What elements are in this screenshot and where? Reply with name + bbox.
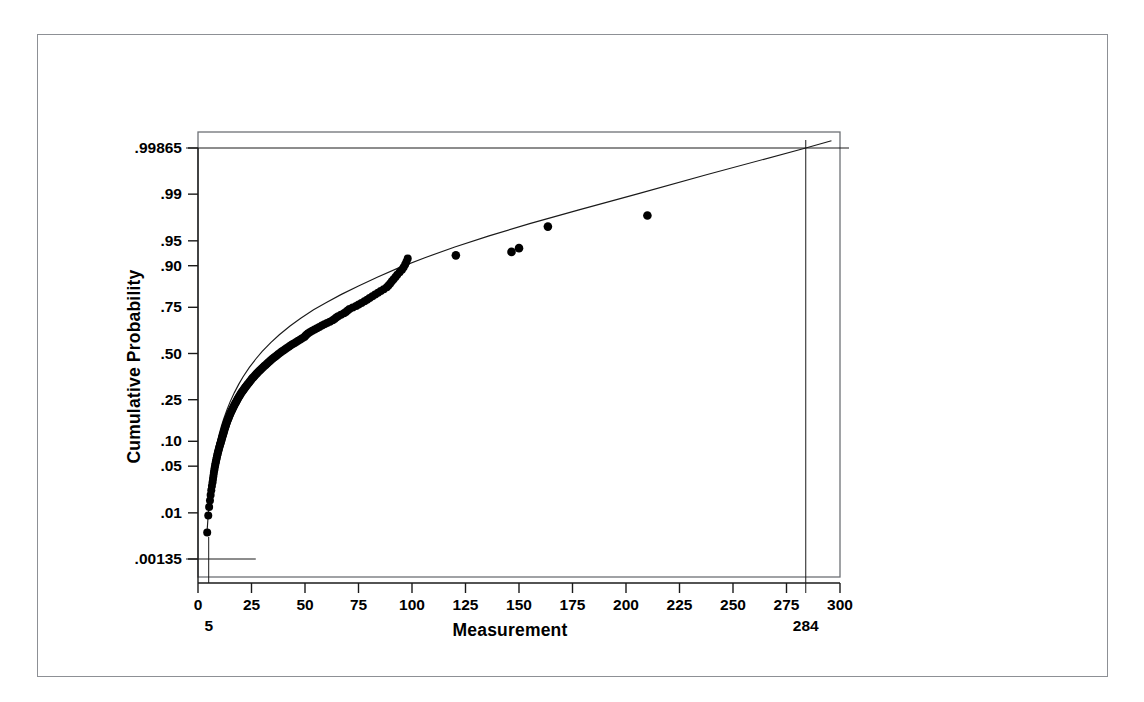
plot-frame [198,132,840,577]
x-tick-label: 25 [243,596,260,614]
y-tick-label: .50 [60,345,182,363]
lower-reference-label: 5 [204,617,213,635]
reference-lines [186,140,849,593]
data-point [452,251,461,260]
x-axis-title: Measurement [390,620,630,641]
x-tick-label: 75 [350,596,367,614]
y-tick-label: .99 [60,185,182,203]
y-tick-label: .99865 [60,139,182,157]
y-tick-label: .25 [60,391,182,409]
x-tick-label: 300 [827,596,853,614]
y-tick-label: .10 [60,432,182,450]
y-tick-label: .75 [60,298,182,316]
data-point [204,512,212,520]
y-tick-label: .01 [60,504,182,522]
x-tick-label: 0 [194,596,203,614]
figure-root: Cumulative Probability Measurement .0013… [0,0,1144,702]
y-tick-label: .90 [60,257,182,275]
x-tick-label: 175 [560,596,586,614]
y-tick-label: .00135 [60,550,182,568]
x-axis-ticks [198,583,840,593]
x-tick-label: 200 [613,596,639,614]
x-tick-label: 225 [667,596,693,614]
x-tick-label: 150 [506,596,532,614]
x-tick-label: 100 [399,596,425,614]
data-point-group [203,211,652,536]
data-point [507,248,516,257]
data-point [643,211,652,220]
plot-area: Cumulative Probability Measurement .0013… [0,0,1144,702]
x-tick-label: 275 [774,596,800,614]
y-tick-label: .05 [60,457,182,475]
data-point [544,222,553,231]
x-tick-label: 250 [720,596,746,614]
data-point [404,255,412,263]
upper-reference-label: 284 [793,617,819,635]
x-tick-label: 50 [296,596,313,614]
y-tick-label: .95 [60,232,182,250]
data-point [203,528,211,536]
y-axis-ticks [188,148,198,559]
data-point [515,244,524,253]
x-tick-label: 125 [453,596,479,614]
